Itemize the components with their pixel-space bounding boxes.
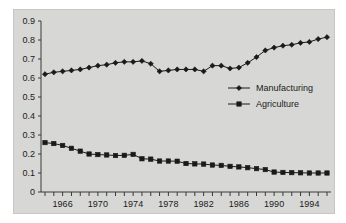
data-point-marker xyxy=(184,161,188,165)
data-point-marker xyxy=(245,60,250,65)
data-point-marker xyxy=(69,68,74,73)
data-point-marker xyxy=(228,164,232,168)
data-point-marker xyxy=(131,59,136,64)
data-point-marker xyxy=(122,153,126,157)
y-tick-label: 0.2 xyxy=(22,149,35,159)
data-point-marker xyxy=(193,162,197,166)
data-point-marker xyxy=(237,165,241,169)
data-point-marker xyxy=(78,67,83,72)
data-point-marker xyxy=(280,43,285,48)
legend-label: Manufacturing xyxy=(256,83,313,93)
data-point-marker xyxy=(307,171,311,175)
data-point-marker xyxy=(298,171,302,175)
x-axis-group: 19661970197419781982198619901994 xyxy=(41,192,331,209)
y-tick-label: 0.3 xyxy=(22,130,35,140)
line-chart: 00.10.20.30.40.50.60.70.80.9 19661970197… xyxy=(0,0,346,223)
data-point-marker xyxy=(87,152,91,156)
y-tick-label: 0.9 xyxy=(22,16,35,26)
x-tick-label: 1994 xyxy=(299,199,319,209)
data-point-marker xyxy=(51,70,56,75)
data-point-marker xyxy=(157,159,161,163)
legend-entry-manufacturing[interactable]: Manufacturing xyxy=(228,83,313,93)
square-marker-icon xyxy=(237,102,241,106)
data-point-marker xyxy=(281,170,285,174)
data-point-marker xyxy=(86,65,91,70)
data-point-marker xyxy=(201,162,205,166)
series-line xyxy=(45,143,327,173)
series-manufacturing xyxy=(42,35,329,77)
data-point-marker xyxy=(254,166,258,170)
data-point-marker xyxy=(139,58,144,63)
x-axis-tick-labels: 19661970197419781982198619901994 xyxy=(53,199,320,209)
data-point-marker xyxy=(210,63,215,68)
y-tick-label: 0.4 xyxy=(22,111,35,121)
data-point-marker xyxy=(131,152,135,156)
legend-entry-agriculture[interactable]: Agriculture xyxy=(228,99,299,109)
data-point-marker xyxy=(316,36,321,41)
data-point-marker xyxy=(60,69,65,74)
data-point-marker xyxy=(245,165,249,169)
y-tick-label: 0 xyxy=(30,187,35,197)
data-point-marker xyxy=(60,143,64,147)
data-point-marker xyxy=(42,72,47,77)
data-point-marker xyxy=(122,59,127,64)
data-point-marker xyxy=(166,159,170,163)
data-point-marker xyxy=(113,60,118,65)
data-point-marker xyxy=(175,159,179,163)
y-axis-group: 00.10.20.30.40.50.60.70.80.9 xyxy=(22,16,41,197)
data-point-marker xyxy=(149,157,153,161)
chart-legend: ManufacturingAgriculture xyxy=(228,83,313,109)
data-point-marker xyxy=(227,66,232,71)
data-point-marker xyxy=(236,65,241,70)
data-point-marker xyxy=(95,63,100,68)
x-tick-label: 1978 xyxy=(158,199,178,209)
data-point-marker xyxy=(140,157,144,161)
x-tick-label: 1982 xyxy=(194,199,214,209)
legend-label: Agriculture xyxy=(256,99,299,109)
data-point-marker xyxy=(298,40,303,45)
data-point-marker xyxy=(78,149,82,153)
y-tick-label: 0.6 xyxy=(22,73,35,83)
data-point-marker xyxy=(52,141,56,145)
data-point-marker xyxy=(104,62,109,67)
data-point-marker xyxy=(183,67,188,72)
series-agriculture xyxy=(43,140,329,175)
data-point-marker xyxy=(43,140,47,144)
data-point-marker xyxy=(272,45,277,50)
y-tick-label: 0.8 xyxy=(22,35,35,45)
x-tick-label: 1966 xyxy=(53,199,73,209)
chart-figure: 00.10.20.30.40.50.60.70.80.9 19661970197… xyxy=(0,0,346,223)
x-axis-ticks xyxy=(45,192,327,196)
data-point-marker xyxy=(104,153,108,157)
data-point-marker xyxy=(290,170,294,174)
y-tick-label: 0.5 xyxy=(22,92,35,102)
data-point-marker xyxy=(69,146,73,150)
data-point-marker xyxy=(175,67,180,72)
data-point-marker xyxy=(219,63,224,68)
data-point-marker xyxy=(210,163,214,167)
x-tick-label: 1990 xyxy=(264,199,284,209)
data-point-marker xyxy=(201,69,206,74)
data-point-marker xyxy=(192,67,197,72)
data-point-marker xyxy=(324,35,329,40)
data-point-marker xyxy=(289,42,294,47)
y-tick-label: 0.7 xyxy=(22,54,35,64)
x-tick-label: 1970 xyxy=(88,199,108,209)
data-point-marker xyxy=(307,39,312,44)
data-point-marker xyxy=(316,171,320,175)
y-axis-tick-labels: 00.10.20.30.40.50.60.70.80.9 xyxy=(22,16,35,197)
data-point-marker xyxy=(96,152,100,156)
data-point-marker xyxy=(219,163,223,167)
x-tick-label: 1974 xyxy=(123,199,143,209)
data-point-marker xyxy=(263,167,267,171)
x-tick-label: 1986 xyxy=(229,199,249,209)
data-point-marker xyxy=(113,153,117,157)
data-point-marker xyxy=(272,170,276,174)
y-tick-label: 0.1 xyxy=(22,168,35,178)
data-point-marker xyxy=(325,171,329,175)
data-point-marker xyxy=(166,68,171,73)
diamond-marker-icon xyxy=(236,85,241,90)
